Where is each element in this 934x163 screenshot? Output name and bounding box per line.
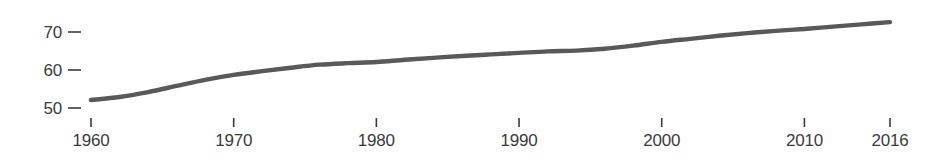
y-axis: 506070 bbox=[43, 23, 81, 118]
y-axis-tick-label: 70 bbox=[43, 23, 62, 42]
x-axis-tick-label: 2010 bbox=[786, 131, 823, 150]
x-axis-tick-label: 1960 bbox=[72, 131, 109, 150]
x-axis-tick-label: 2000 bbox=[643, 131, 680, 150]
line-chart: 506070 1960197019801990200020102016 bbox=[0, 0, 934, 163]
x-axis-tick-label: 1980 bbox=[358, 131, 395, 150]
data-series-group bbox=[91, 22, 890, 100]
chart-canvas: 506070 1960197019801990200020102016 bbox=[0, 0, 934, 163]
x-axis-tick-label: 2016 bbox=[871, 131, 908, 150]
series-line-1 bbox=[91, 22, 890, 100]
x-axis: 1960197019801990200020102016 bbox=[72, 118, 908, 150]
x-axis-tick-label: 1970 bbox=[215, 131, 252, 150]
y-axis-tick-label: 50 bbox=[43, 99, 62, 118]
x-axis-tick-label: 1990 bbox=[501, 131, 538, 150]
y-axis-tick-label: 60 bbox=[43, 61, 62, 80]
